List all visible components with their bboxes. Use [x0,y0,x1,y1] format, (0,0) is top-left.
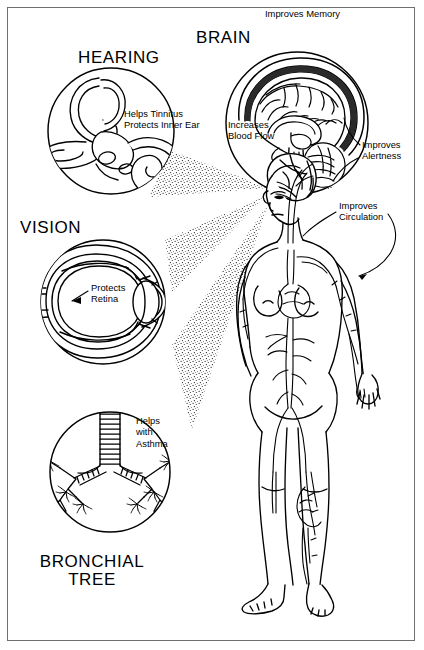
leader-lines [0,0,424,650]
leader-alertness-2 [333,158,358,181]
poster-canvas: HEARING BRAIN VISION BRONCHIAL TREE Impr… [0,0,424,650]
leader-alertness [344,118,360,145]
leader-circulation [359,214,396,276]
leader-circulation-3 [303,212,336,236]
